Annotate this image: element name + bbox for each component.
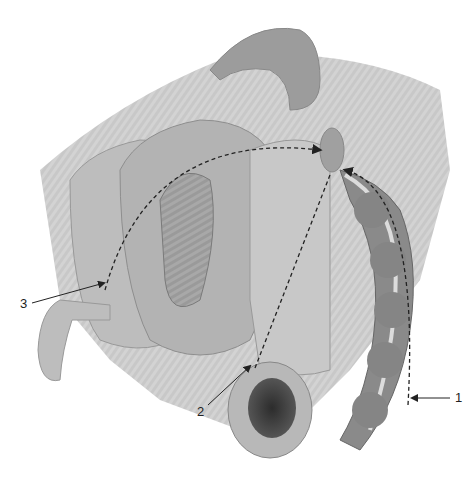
anatomical-diagram: 1 2 3 (0, 0, 473, 479)
label-2: 2 (197, 404, 204, 419)
label-1: 1 (455, 390, 462, 405)
rectum-lumen (248, 378, 296, 438)
label-3: 3 (20, 296, 27, 311)
cervix (320, 128, 344, 172)
vaginal-canal (250, 140, 330, 375)
illustration (0, 0, 473, 479)
